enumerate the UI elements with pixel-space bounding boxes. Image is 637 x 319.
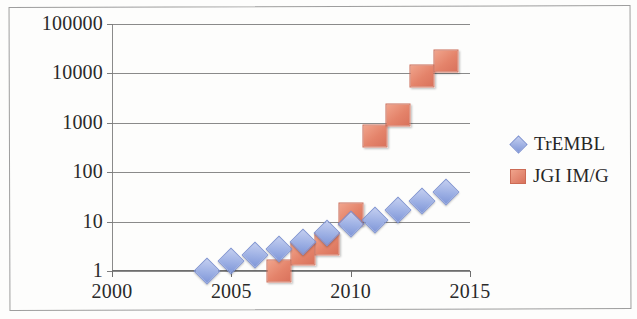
y-axis-tick — [107, 222, 113, 223]
chart-figure: 1101001000100001000002000200520102015 Tr… — [0, 0, 637, 319]
y-axis-tick — [107, 73, 113, 74]
data-point-square — [362, 124, 387, 147]
y-gridline — [112, 172, 470, 173]
data-point-square — [386, 103, 411, 126]
x-axis-tick — [470, 271, 471, 277]
y-axis-tick — [107, 123, 113, 124]
x-axis-label: 2005 — [211, 280, 252, 303]
plot-area: 1101001000100001000002000200520102015 — [112, 24, 470, 271]
legend-label: TrEMBL — [534, 133, 605, 155]
legend-item-jgi: JGI IM/G — [510, 160, 609, 192]
y-gridline — [112, 24, 470, 25]
y-axis-label: 10 — [83, 210, 103, 233]
data-point-diamond — [242, 242, 269, 269]
x-axis-tick — [351, 271, 352, 277]
x-axis-label: 2015 — [450, 280, 491, 303]
data-point-square — [267, 260, 292, 283]
diamond-marker-icon — [509, 135, 527, 153]
y-axis-label: 10000 — [52, 61, 103, 84]
legend-item-tremble: TrEMBL — [510, 128, 609, 160]
y-axis-label: 1 — [93, 259, 103, 282]
chart-legend: TrEMBL JGI IM/G — [510, 128, 609, 192]
y-axis-label: 100000 — [42, 12, 103, 35]
legend-label: JGI IM/G — [533, 165, 609, 187]
data-point-diamond — [266, 235, 293, 262]
y-axis-tick — [107, 24, 113, 25]
data-point-diamond — [433, 178, 460, 205]
y-gridline — [112, 123, 470, 124]
y-gridline — [112, 222, 470, 223]
x-axis-label: 2010 — [330, 280, 371, 303]
square-marker-icon — [510, 169, 526, 184]
y-axis-tick — [107, 172, 113, 173]
x-axis-tick — [112, 271, 113, 277]
y-axis-label: 1000 — [62, 111, 103, 134]
data-point-square — [410, 64, 435, 87]
y-axis-label: 100 — [72, 160, 103, 183]
data-point-square — [434, 49, 459, 72]
x-axis-label: 2000 — [92, 280, 133, 303]
y-axis — [112, 24, 113, 271]
